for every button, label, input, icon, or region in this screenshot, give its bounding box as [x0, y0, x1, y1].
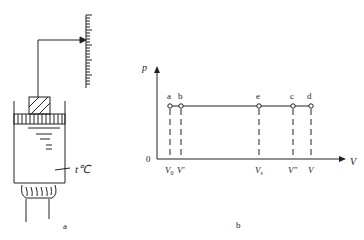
diagram-canvas: t℃ a p V 0 a b e c d V0 V′ Vs V″ V [0, 0, 364, 240]
y-axis-arrow-icon [154, 66, 160, 73]
y-axis-label: p [141, 62, 147, 73]
tick-label-v: V [308, 165, 315, 175]
x-axis-label: V [350, 156, 358, 167]
point-label-e: e [256, 91, 260, 101]
caption-a: a [63, 221, 67, 231]
piston-stripes [18, 114, 62, 124]
heater-coils [26, 187, 52, 196]
tick-label-vs: Vs [255, 165, 264, 176]
point-d [309, 104, 313, 108]
dashed-guides [170, 109, 311, 159]
point-e [257, 104, 261, 108]
point-label-b: b [178, 91, 183, 101]
scale-ticks [86, 15, 92, 84]
tick-label-v0: V0 [165, 165, 174, 176]
point-label-d: d [307, 91, 312, 101]
point-a [168, 104, 172, 108]
pointer-rod [38, 40, 82, 97]
point-label-a: a [167, 91, 171, 101]
point-label-c: c [290, 91, 294, 101]
figure-a [14, 15, 92, 222]
tick-label-v-prime: V′ [177, 165, 185, 175]
temperature-leader [55, 168, 70, 170]
pointer-arrow-icon [80, 37, 86, 43]
point-b [179, 104, 183, 108]
liquid-surface-icon [28, 128, 60, 149]
figure-b [154, 66, 346, 162]
point-c [291, 104, 295, 108]
caption-b: b [236, 220, 241, 230]
weight-hatching [29, 97, 50, 114]
origin-label: 0 [146, 154, 151, 164]
x-axis-arrow-icon [339, 156, 346, 162]
tick-label-v-double-prime: V″ [288, 165, 297, 175]
temperature-label: t℃ [75, 163, 92, 175]
